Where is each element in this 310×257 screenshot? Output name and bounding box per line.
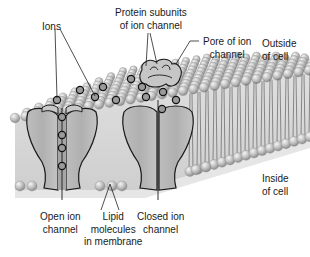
label-ions-text: Ions xyxy=(42,21,61,34)
label-pore: Pore of ion channel xyxy=(203,36,251,61)
label-protein-subunits: Protein subunits of ion channel xyxy=(115,7,187,32)
label-open-line1: Open ion xyxy=(40,211,81,224)
label-inside-line2: of cell xyxy=(262,186,289,199)
label-inside-line1: Inside xyxy=(262,173,289,186)
label-protein-subunits-line2: of ion channel xyxy=(115,20,187,33)
label-outside-line1: Outside xyxy=(262,38,296,51)
label-closed-line1: Closed ion xyxy=(137,211,184,224)
label-pore-line1: Pore of ion xyxy=(203,36,251,49)
label-open-ion-channel: Open ion channel xyxy=(40,211,81,236)
label-closed-ion-channel: Closed ion channel xyxy=(137,211,184,236)
protein-leader-line-2 xyxy=(150,33,157,64)
label-closed-line2: channel xyxy=(137,224,184,237)
label-outside-cell: Outside of cell xyxy=(262,38,296,63)
label-lipid-line3: in membrane xyxy=(84,236,142,249)
label-lipid-line2: molecules xyxy=(84,224,142,237)
label-inside-cell: Inside of cell xyxy=(262,173,289,198)
label-lipid-line1: Lipid xyxy=(84,211,142,224)
ions-leader-line-1 xyxy=(55,29,57,98)
ion-channel-diagram: Ions Protein subunits of ion channel Por… xyxy=(0,0,310,257)
label-outside-line2: of cell xyxy=(262,51,296,64)
label-pore-line2: channel xyxy=(203,49,251,62)
label-lipid-molecules: Lipid molecules in membrane xyxy=(84,211,142,249)
ions-leader-line-2 xyxy=(60,29,95,96)
label-open-line2: channel xyxy=(40,224,81,237)
label-protein-subunits-line1: Protein subunits xyxy=(115,7,187,20)
label-ions: Ions xyxy=(42,21,61,34)
